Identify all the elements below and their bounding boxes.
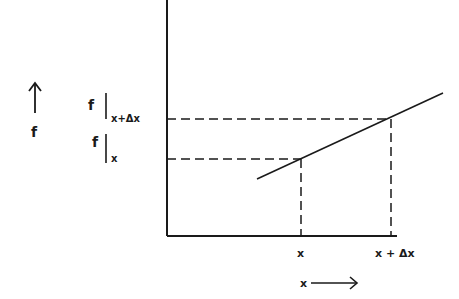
up-arrow-icon <box>29 83 41 113</box>
f-xdx-subscript: x+Δx <box>111 113 141 124</box>
x-axis-label: x <box>300 277 307 290</box>
f-x-label: f <box>92 134 99 150</box>
y-axis-label: f <box>31 124 38 140</box>
f-x-subscript: x <box>111 153 118 164</box>
right-arrow-icon <box>311 277 357 289</box>
diagram-canvas: f f x+Δx f x x x + Δx x <box>0 0 459 299</box>
x-tick-label-xdx: x + Δx <box>375 247 415 260</box>
f-xdx-label: f <box>88 97 95 113</box>
x-tick-label-x: x <box>297 247 304 260</box>
function-line <box>257 93 443 179</box>
